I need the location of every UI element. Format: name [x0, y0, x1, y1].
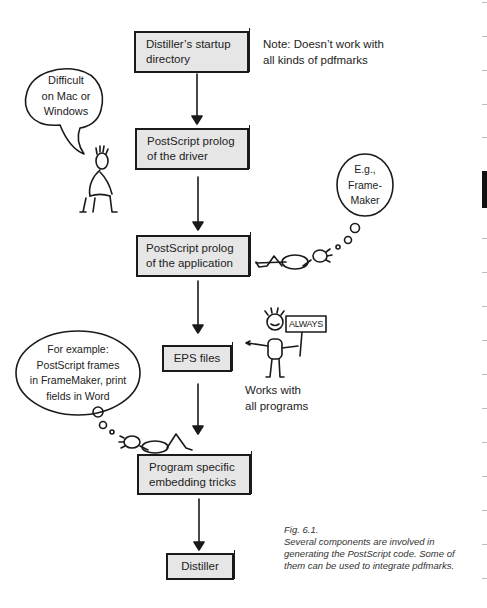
arrow-startup-to-driver	[192, 74, 202, 124]
margin-tick	[482, 340, 487, 341]
bubble-line: PostScript frames	[16, 358, 140, 374]
margin-tick	[482, 272, 487, 273]
stick-figure-seated	[80, 146, 117, 212]
bubble-line: For example:	[16, 342, 140, 358]
arrow-application-to-eps	[193, 281, 203, 333]
flow-box-eps-files: EPS files	[162, 345, 232, 372]
box-label-line1: Program specific	[149, 460, 249, 475]
bubble-line: E.g.,	[337, 162, 393, 178]
margin-tick	[482, 70, 487, 71]
margin-tick	[482, 476, 487, 477]
margin-tick	[482, 36, 487, 37]
startup-note-line2: all kinds of pdfmarks	[263, 52, 384, 68]
margin-tick	[482, 238, 487, 239]
arrow-driver-to-application	[193, 177, 203, 230]
arrow-eps-to-tricks	[193, 384, 203, 434]
margin-tick	[482, 578, 487, 579]
box-label-line2: directory	[146, 52, 247, 67]
caption-figure-number: Fig. 6.1.	[284, 524, 455, 536]
box-label-line1: Distiller’s startup	[146, 37, 247, 52]
eps-note-line2: all programs	[245, 398, 308, 414]
bubble-line: fields in Word	[16, 389, 140, 405]
flow-box-embedding-tricks: Program specific embedding tricks	[137, 454, 251, 495]
bubble-line: Frame-	[337, 178, 393, 194]
box-label: Distiller	[181, 559, 219, 574]
caption-line1: Several components are involved in	[284, 536, 455, 548]
margin-tick	[482, 510, 487, 511]
sign-always-text: ALWAYS	[286, 317, 326, 331]
thought-bubble-framemaker-text: E.g., Frame- Maker	[337, 162, 393, 209]
caption-line3: them can be used to integrate pdfmarks.	[284, 560, 455, 572]
margin-tick	[482, 374, 487, 375]
speech-bubble-difficult-text: Difficult on Mac or Windows	[30, 73, 102, 120]
margin-tick	[482, 408, 487, 409]
eps-note: Works with all programs	[245, 382, 308, 414]
flow-box-startup-directory: Distiller’s startup directory	[134, 31, 249, 73]
margin-tick	[482, 544, 487, 545]
margin-tick	[482, 137, 487, 138]
caption-line2: generating the PostScript code. Some of	[284, 548, 455, 560]
eps-note-line1: Works with	[245, 382, 308, 398]
box-label-line2: embedding tricks	[149, 475, 249, 490]
box-label: EPS files	[174, 351, 221, 366]
margin-tick	[482, 2, 487, 3]
stick-figure-lying-bottom	[119, 434, 192, 453]
box-label-line1: PostScript prolog	[147, 134, 247, 149]
flow-box-prolog-application: PostScript prolog of the application	[136, 235, 250, 277]
box-label-line1: PostScript prolog	[146, 241, 248, 256]
bubble-line: Difficult	[30, 73, 102, 89]
startup-note-line1: Note: Doesn’t work with	[263, 36, 384, 52]
startup-note: Note: Doesn’t work with all kinds of pdf…	[263, 36, 384, 68]
bubble-line: in FrameMaker, print	[16, 373, 140, 389]
margin-tick	[482, 442, 487, 443]
margin-tick	[482, 104, 487, 105]
margin-chapter-tab	[482, 171, 487, 208]
box-label-line2: of the application	[146, 256, 248, 271]
thought-bubble-example-text: For example: PostScript frames in FrameM…	[16, 342, 140, 404]
flow-box-distiller: Distiller	[166, 553, 234, 580]
bubble-line: on Mac or	[30, 89, 102, 105]
box-label-line2: of the driver	[147, 149, 247, 164]
stick-figure-lying-top	[256, 249, 332, 269]
arrow-tricks-to-distiller	[194, 499, 204, 550]
flow-box-prolog-driver: PostScript prolog of the driver	[135, 128, 249, 170]
bubble-line: Maker	[337, 193, 393, 209]
figure-caption: Fig. 6.1. Several components are involve…	[284, 524, 455, 572]
margin-tick	[482, 306, 487, 307]
bubble-line: Windows	[30, 104, 102, 120]
